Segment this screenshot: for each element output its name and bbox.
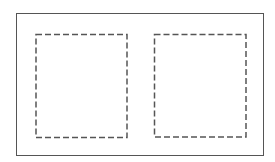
right-dashed-panel xyxy=(155,35,247,138)
dashed-panels xyxy=(0,0,275,162)
left-dashed-panel xyxy=(36,35,127,138)
